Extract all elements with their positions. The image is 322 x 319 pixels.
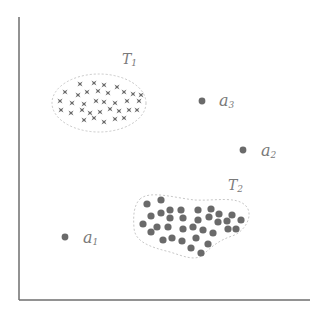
star-marker xyxy=(121,115,126,120)
star-marker xyxy=(112,100,117,105)
star-marker xyxy=(77,81,82,86)
dot-marker xyxy=(205,213,212,220)
star-marker xyxy=(93,98,98,103)
point-a1-label: a1 xyxy=(83,228,98,247)
cluster-T2-label: T2 xyxy=(228,177,243,194)
dot-marker xyxy=(179,214,186,221)
dot-marker xyxy=(187,244,194,251)
star-marker xyxy=(101,82,106,87)
star-marker xyxy=(114,84,119,89)
cluster-T2 xyxy=(139,196,244,256)
dot-marker xyxy=(179,225,186,232)
star-marker xyxy=(105,90,110,95)
cluster-T1 xyxy=(57,80,143,124)
star-marker xyxy=(69,100,74,105)
point-a1 xyxy=(62,234,69,241)
dot-marker xyxy=(197,249,204,256)
point-a3-label: a3 xyxy=(219,91,235,110)
dot-marker xyxy=(178,237,185,244)
star-marker xyxy=(91,115,96,120)
point-a2-label: a2 xyxy=(261,141,277,160)
star-marker xyxy=(81,101,86,106)
point-a3 xyxy=(199,98,206,105)
star-marker xyxy=(91,80,96,85)
dot-marker xyxy=(214,218,221,225)
clustering-diagram: T1T2a3a2a1 xyxy=(0,0,322,319)
star-marker xyxy=(79,107,84,112)
dot-marker xyxy=(215,210,222,217)
dot-marker xyxy=(153,223,160,230)
dot-marker xyxy=(207,205,214,212)
dot-marker xyxy=(164,223,171,230)
dot-marker xyxy=(159,236,166,243)
star-marker xyxy=(136,98,141,103)
dot-marker xyxy=(166,206,173,213)
dot-marker xyxy=(189,223,196,230)
star-marker xyxy=(75,92,80,97)
star-marker xyxy=(101,119,106,124)
star-marker xyxy=(126,107,131,112)
dot-marker xyxy=(228,211,235,218)
star-marker xyxy=(124,98,129,103)
dot-marker xyxy=(168,234,175,241)
dot-marker xyxy=(194,206,201,213)
dot-marker xyxy=(139,220,146,227)
dot-marker xyxy=(166,214,173,221)
star-marker xyxy=(112,116,117,121)
dot-marker xyxy=(209,229,216,236)
dot-marker xyxy=(177,206,184,213)
dot-marker xyxy=(224,225,231,232)
dot-marker xyxy=(157,209,164,216)
star-marker xyxy=(116,108,121,113)
point-a2 xyxy=(240,147,247,154)
star-marker xyxy=(84,89,89,94)
cluster-T1-outline xyxy=(52,74,146,132)
star-marker xyxy=(121,89,126,94)
dot-marker xyxy=(199,226,206,233)
dot-marker xyxy=(232,225,239,232)
dot-marker xyxy=(204,240,211,247)
star-marker xyxy=(87,110,92,115)
star-marker xyxy=(138,92,143,97)
dot-marker xyxy=(223,217,230,224)
star-marker xyxy=(101,99,106,104)
cluster-T1-label: T1 xyxy=(122,51,137,68)
star-marker xyxy=(130,91,135,96)
star-marker xyxy=(134,107,139,112)
star-marker xyxy=(58,107,63,112)
dot-marker xyxy=(147,228,154,235)
star-marker xyxy=(62,89,67,94)
dot-marker xyxy=(157,196,164,203)
star-marker xyxy=(57,98,62,103)
star-marker xyxy=(68,110,73,115)
dot-marker xyxy=(147,212,154,219)
dot-marker xyxy=(143,200,150,207)
star-marker xyxy=(97,109,102,114)
dot-marker xyxy=(192,234,199,241)
star-marker xyxy=(95,88,100,93)
dot-marker xyxy=(237,216,244,223)
star-marker xyxy=(81,117,86,122)
dot-marker xyxy=(194,216,201,223)
star-marker xyxy=(107,106,112,111)
